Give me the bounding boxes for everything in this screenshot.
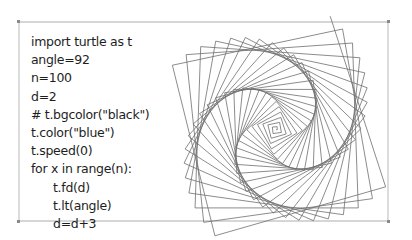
turtle-spiral-figure	[0, 0, 412, 240]
spiral-path	[172, 16, 385, 236]
